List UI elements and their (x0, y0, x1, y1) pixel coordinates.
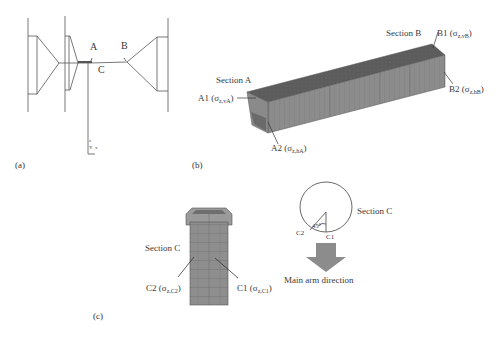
point-b2-label: B2 (σz,hB) (449, 84, 484, 95)
point-c1-label: C1 (σz,C1) (237, 283, 272, 294)
circle-c2-label: C2 (296, 229, 304, 237)
axis-z-label: z (89, 138, 91, 143)
point-b1-label: B1 (σz,vB) (437, 28, 472, 39)
section-a-label: Section A (216, 75, 251, 85)
panel-tag-a: (a) (15, 160, 25, 170)
point-c2-label: C2 (σz,C2) (146, 283, 181, 294)
crane-sketch (28, 16, 168, 154)
angle-label: 45° (312, 222, 321, 229)
axis-x-label: x (95, 145, 98, 150)
point-a1-label: A1 (σz,vA) (198, 93, 234, 104)
axis-y-label: Y (89, 145, 93, 150)
point-a2-label: A2 (σz,hA) (271, 143, 307, 154)
box-beam (247, 44, 445, 133)
main-arm-direction-label: Main arm direction (284, 275, 353, 285)
section-b-label: Section B (386, 28, 421, 38)
main-arm-direction-arrow (306, 243, 346, 272)
section-c-circle (300, 182, 352, 232)
tower-mesh (186, 208, 232, 305)
section-c-circle-label: Section C (357, 206, 392, 216)
point-b-label: B (121, 40, 128, 51)
section-c-tower-label: Section C (145, 243, 180, 253)
point-a-label: A (90, 41, 97, 52)
panel-tag-b: (b) (192, 160, 203, 170)
panel-tag-c: (c) (93, 311, 103, 321)
point-c-label: C (98, 64, 105, 75)
circle-c1-label: C1 (326, 233, 334, 241)
